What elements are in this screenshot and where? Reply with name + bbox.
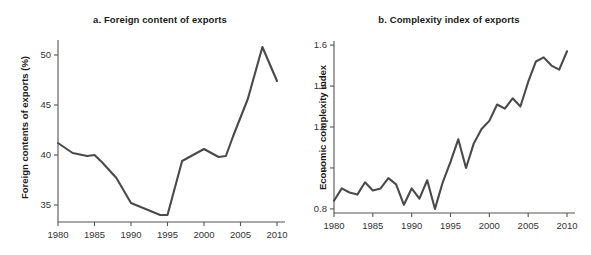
panel-a-plot: 354045501980198519901995200020052010 xyxy=(0,0,296,255)
chart-panel-b: b. Complexity index of exports Economic … xyxy=(295,0,591,255)
y-tick-label: 1.4 xyxy=(314,80,327,91)
x-tick-label: 2010 xyxy=(556,220,577,231)
x-tick-label: 2005 xyxy=(518,220,539,231)
x-tick-label: 1980 xyxy=(47,229,68,240)
y-tick-label: 45 xyxy=(40,99,51,110)
x-tick-label: 2000 xyxy=(193,229,214,240)
y-tick-label: 1.2 xyxy=(314,121,327,132)
data-series-line xyxy=(334,51,567,209)
y-tick-label: 1 xyxy=(322,162,327,173)
x-tick-label: 2005 xyxy=(230,229,251,240)
y-tick-label: 40 xyxy=(40,149,51,160)
x-tick-label: 1995 xyxy=(157,229,178,240)
x-tick-label: 2010 xyxy=(266,229,287,240)
figure-container: a. Foreign content of exports Foreign co… xyxy=(0,0,591,255)
panel-b-plot: 0.811.21.41.6198019851990199520002005201… xyxy=(295,0,591,255)
x-tick-label: 2000 xyxy=(479,220,500,231)
x-tick-label: 1985 xyxy=(84,229,105,240)
y-tick-label: 1.6 xyxy=(314,39,327,50)
y-tick-label: 35 xyxy=(40,199,51,210)
x-tick-label: 1995 xyxy=(440,220,461,231)
y-tick-label: 50 xyxy=(40,49,51,60)
chart-panel-a: a. Foreign content of exports Foreign co… xyxy=(0,0,296,255)
x-tick-label: 1990 xyxy=(120,229,141,240)
x-tick-label: 1985 xyxy=(362,220,383,231)
data-series-line xyxy=(58,47,277,215)
x-tick-label: 1990 xyxy=(401,220,422,231)
x-tick-label: 1980 xyxy=(323,220,344,231)
y-tick-label: 0.8 xyxy=(314,203,327,214)
